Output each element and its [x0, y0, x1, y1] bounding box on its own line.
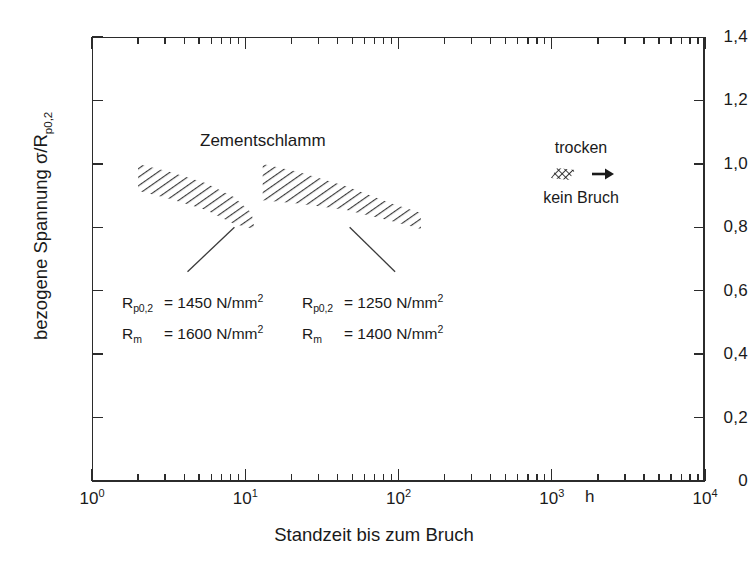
rp-value: = 1250 N/mm [344, 294, 437, 311]
rm-value: = 1600 N/mm [164, 325, 257, 342]
legend-label-trocken: trocken [515, 137, 647, 159]
rp-unit-exponent: 2 [257, 292, 263, 304]
chart-canvas: 1,41,21,00,80,60,40,20 100101102103104 b… [0, 0, 748, 571]
rp-symbol: R [302, 294, 313, 311]
rp-symbol: R [122, 294, 133, 311]
legend: trocken kein Bruch [515, 137, 647, 208]
leader-line-1 [188, 227, 235, 271]
rp-subscript: p0,2 [313, 302, 333, 314]
data-band-2 [263, 164, 421, 229]
rm-symbol: R [122, 325, 133, 342]
band-svg [0, 0, 748, 571]
rm-unit-exponent: 2 [437, 323, 443, 335]
data-band-1 [138, 164, 255, 229]
legend-label-kein-bruch: kein Bruch [515, 187, 647, 209]
hatched-band-swatch-icon [548, 166, 578, 182]
rm-symbol: R [302, 325, 313, 342]
right-arrow-icon [591, 167, 615, 181]
annotation-block-right: Rp0,2= 1250 N/mm2 Rm= 1400 N/mm2 [302, 288, 443, 349]
annotation-block-left: Rp0,2= 1450 N/mm2 Rm= 1600 N/mm2 [122, 288, 263, 349]
rm-value: = 1400 N/mm [344, 325, 437, 342]
rm-subscript: m [313, 333, 322, 345]
annotation-left-line-1: Rp0,2= 1450 N/mm2 [122, 288, 263, 319]
legend-marker-row [515, 166, 647, 182]
data-band-group [0, 0, 748, 571]
series-label-zementschlamm: Zementschlamm [200, 131, 326, 151]
annotation-right-line-1: Rp0,2= 1250 N/mm2 [302, 288, 443, 319]
leader-line-2 [350, 227, 395, 271]
rp-value: = 1450 N/mm [164, 294, 257, 311]
rp-subscript: p0,2 [133, 302, 153, 314]
rp-unit-exponent: 2 [437, 292, 443, 304]
annotation-right-line-2: Rm= 1400 N/mm2 [302, 319, 443, 350]
rm-unit-exponent: 2 [257, 323, 263, 335]
annotation-left-line-2: Rm= 1600 N/mm2 [122, 319, 263, 350]
rm-subscript: m [133, 333, 142, 345]
